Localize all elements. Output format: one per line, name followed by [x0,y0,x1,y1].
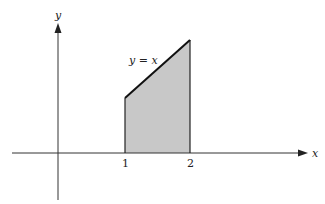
diagram-svg: y x y = x 1 2 [0,0,325,204]
diagram: y x y = x 1 2 [0,0,325,204]
x-axis-label: x [312,147,319,160]
x-axis-arrow-icon [298,150,308,157]
curve-label: y = x [128,54,158,67]
y-axis-label: y [54,9,62,22]
tick-label-1: 1 [122,157,129,170]
y-axis-arrow-icon [55,23,62,33]
tick-label-2: 2 [187,157,194,170]
